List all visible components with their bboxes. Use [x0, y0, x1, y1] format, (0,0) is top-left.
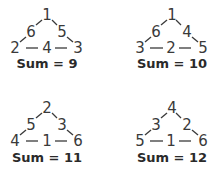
vertex-bottom-right: 3 — [73, 41, 83, 56]
edge-bottom-mid: 1 — [42, 134, 52, 149]
edge-bottom-mid: 2 — [166, 41, 176, 56]
vertex-bottom-left: 2 — [10, 41, 20, 56]
vertex-bottom-right: 5 — [198, 41, 208, 56]
vertex-bottom-left: 4 — [10, 134, 20, 149]
edge-bottom-mid: 4 — [42, 41, 52, 56]
edge-left-mid: 3 — [151, 118, 161, 133]
sum-label: Sum = 12 — [137, 151, 207, 165]
edge-right-mid: 3 — [57, 118, 67, 133]
edge-left-mid: 6 — [26, 25, 36, 40]
vertex-bottom-left: 3 — [135, 41, 145, 56]
vertex-bottom-left: 5 — [135, 134, 145, 149]
triangle-puzzle-2: 1 6 4 3 2 5 Sum = 10 — [109, 0, 218, 85]
vertex-bottom-right: 6 — [198, 134, 208, 149]
sum-label: Sum = 10 — [137, 57, 207, 71]
vertex-top: 4 — [167, 101, 177, 116]
edge-bottom-mid: 1 — [166, 134, 176, 149]
triangle-puzzle-1: 1 6 5 2 4 3 Sum = 9 — [0, 0, 109, 85]
edge-right-mid: 4 — [182, 25, 192, 40]
edge-right-mid: 5 — [57, 25, 67, 40]
triangle-puzzle-3: 2 5 3 4 1 6 Sum = 11 — [0, 85, 109, 170]
edge-left-mid: 5 — [26, 118, 36, 133]
sum-label: Sum = 11 — [12, 151, 82, 165]
sum-label: Sum = 9 — [16, 57, 77, 71]
edge-left-mid: 6 — [151, 25, 161, 40]
vertex-top: 1 — [42, 8, 52, 23]
vertex-top: 1 — [167, 8, 177, 23]
triangle-puzzle-4: 4 3 2 5 1 6 Sum = 12 — [109, 85, 218, 170]
vertex-top: 2 — [42, 101, 52, 116]
vertex-bottom-right: 6 — [73, 134, 83, 149]
edge-right-mid: 2 — [182, 118, 192, 133]
